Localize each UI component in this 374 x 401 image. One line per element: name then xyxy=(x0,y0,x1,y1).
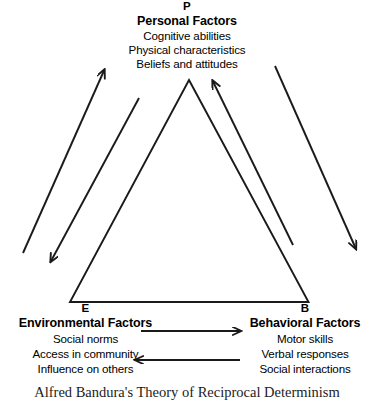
environmental-item-1: Social norms xyxy=(0,332,173,345)
behavioral-item-2: Verbal responses xyxy=(232,347,374,360)
arrow-personal-to-behavioral xyxy=(275,66,356,249)
personal-item-3: Beliefs and attitudes xyxy=(87,57,287,70)
node-title-environmental: Environmental Factors xyxy=(0,316,173,330)
arrow-environmental-to-personal xyxy=(23,70,105,254)
vertex-letter-p: P xyxy=(87,0,287,13)
behavioral-item-1: Motor skills xyxy=(232,332,374,345)
vertex-letter-b: B xyxy=(232,302,374,315)
node-title-behavioral: Behavioral Factors xyxy=(232,316,374,330)
diagram-caption: Alfred Bandura's Theory of Reciprocal De… xyxy=(0,384,374,401)
arrow-personal-to-environmental xyxy=(51,98,140,262)
diagram-canvas: P Personal Factors Cognitive abilities P… xyxy=(0,0,374,401)
node-personal-factors: P Personal Factors Cognitive abilities P… xyxy=(87,0,287,70)
personal-item-2: Physical characteristics xyxy=(87,43,287,56)
node-environmental-factors: E Environmental Factors Social norms Acc… xyxy=(0,302,173,375)
behavioral-item-3: Social interactions xyxy=(232,362,374,375)
personal-item-1: Cognitive abilities xyxy=(87,29,287,42)
node-title-personal: Personal Factors xyxy=(87,14,287,28)
environmental-item-3: Influence on others xyxy=(0,362,173,375)
vertex-letter-e: E xyxy=(0,302,173,315)
node-behavioral-factors: B Behavioral Factors Motor skills Verbal… xyxy=(232,302,374,375)
triangle-outline xyxy=(70,80,309,302)
arrow-behavioral-to-personal xyxy=(213,81,294,246)
environmental-item-2: Access in community xyxy=(0,347,173,360)
